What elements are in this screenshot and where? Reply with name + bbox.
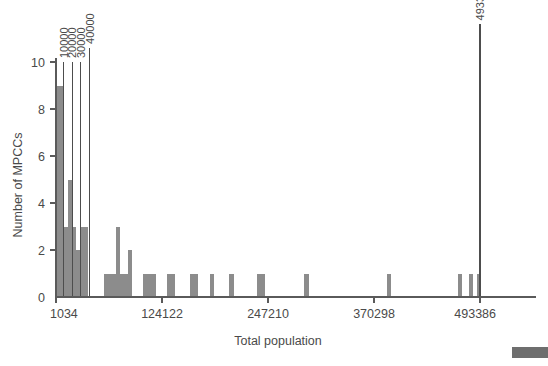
bar	[64, 227, 68, 298]
reference-line-40000-label: 40000	[84, 13, 96, 44]
y-tick-label: 6	[38, 150, 45, 164]
bar	[167, 274, 171, 298]
axes-layer	[50, 58, 536, 303]
reference-line-493386-label: 493386	[474, 0, 486, 20]
bar	[116, 227, 120, 298]
y-tick-label: 4	[38, 197, 45, 211]
bar	[458, 274, 462, 298]
bar	[120, 274, 124, 298]
y-tick-label: 2	[38, 244, 45, 258]
bar	[124, 274, 128, 298]
bar	[171, 274, 175, 298]
y-axis-title: Number of MPCCs	[11, 133, 25, 238]
bar	[469, 274, 473, 298]
x-tick-label: 1034	[50, 307, 78, 321]
bar	[147, 274, 151, 298]
bar	[68, 180, 72, 298]
bar	[210, 274, 214, 298]
x-axis-title: Total population	[234, 334, 322, 348]
x-tick-label: 124122	[141, 307, 183, 321]
bars-layer	[56, 86, 481, 298]
bar	[194, 274, 198, 298]
bar	[151, 274, 155, 298]
bar	[112, 274, 116, 298]
bar	[104, 274, 108, 298]
chart-container: 10000200003000040000493386 1034124122247…	[0, 0, 548, 366]
annotation-lines-layer: 10000200003000040000493386	[58, 0, 486, 297]
corner-color-swatch	[512, 347, 548, 358]
bar	[108, 274, 112, 298]
y-tick-label: 0	[38, 291, 45, 305]
x-tick-label: 370298	[353, 307, 395, 321]
bar	[143, 274, 147, 298]
bar	[84, 227, 88, 298]
bar	[261, 274, 265, 298]
bar	[76, 250, 80, 297]
bar	[128, 250, 132, 297]
x-tick-label: 493386	[454, 307, 496, 321]
bar	[229, 274, 233, 298]
x-tick-label: 247210	[247, 307, 289, 321]
bar	[257, 274, 261, 298]
y-tick-label: 8	[38, 103, 45, 117]
bar-chart-svg: 10000200003000040000493386 1034124122247…	[0, 0, 548, 366]
bar	[190, 274, 194, 298]
bar	[387, 274, 391, 298]
y-tick-label: 10	[31, 56, 45, 70]
bar	[304, 274, 308, 298]
